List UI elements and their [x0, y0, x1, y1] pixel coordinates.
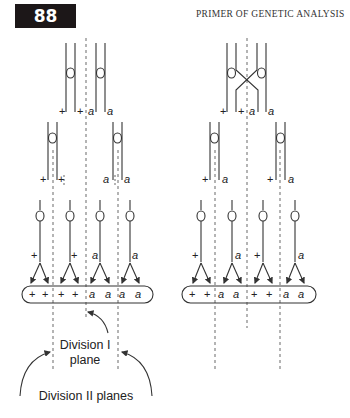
allele-label: +	[31, 249, 37, 261]
allele-label: +	[267, 173, 273, 185]
allele-label: +	[59, 105, 65, 117]
division-1-caption-plane: plane	[70, 353, 101, 367]
spore-label: a	[89, 288, 95, 300]
allele-label: +	[192, 249, 198, 261]
spore-label: a	[105, 288, 111, 300]
spore-label: +	[189, 288, 195, 300]
allele-label: a	[268, 105, 274, 117]
spore-label: +	[72, 288, 78, 300]
spore-label: +	[266, 288, 272, 300]
spore-label: +	[42, 288, 48, 300]
spore-label: +	[204, 288, 210, 300]
allele-label: a	[249, 105, 255, 117]
allele-label: a	[288, 173, 294, 185]
allele-label: +	[77, 105, 83, 117]
allele-label: a	[298, 249, 304, 261]
allele-label: +	[254, 249, 260, 261]
spore-label: a	[135, 288, 141, 300]
ascus-right	[182, 286, 316, 303]
allele-label: a	[103, 173, 109, 185]
allele-label: +	[220, 105, 226, 117]
allele-label: a	[235, 249, 241, 261]
allele-label: a	[107, 105, 113, 117]
allele-label: a	[222, 173, 228, 185]
spore-label: +	[58, 288, 64, 300]
allele-label: +	[71, 249, 77, 261]
spore-label: a	[233, 288, 239, 300]
division-1-caption: Division I	[60, 338, 111, 352]
allele-label: a	[132, 249, 138, 261]
division-2-caption: Division II planes	[39, 389, 134, 403]
spore-label: +	[251, 288, 257, 300]
allele-label: a	[124, 173, 130, 185]
allele-label: +	[202, 173, 208, 185]
allele-label: a	[92, 249, 98, 261]
spore-label: a	[283, 288, 289, 300]
meiosis-diagram: + + a a + + a a + + a a + + + + a a a a …	[0, 0, 350, 418]
allele-label: +	[58, 173, 64, 185]
allele-label: a	[88, 105, 94, 117]
allele-label: +	[238, 105, 244, 117]
spore-label: a	[218, 288, 224, 300]
spore-label: a	[119, 288, 125, 300]
spore-label: +	[29, 288, 35, 300]
spore-label: a	[298, 288, 304, 300]
allele-label: +	[40, 173, 46, 185]
